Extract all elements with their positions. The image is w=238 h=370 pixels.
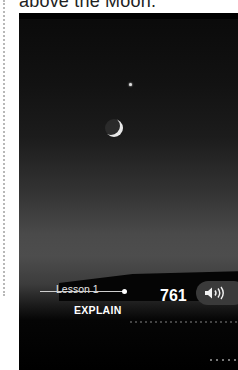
footer-artifact <box>210 359 236 361</box>
page-number: 761 <box>160 287 187 305</box>
star-point <box>129 83 132 86</box>
section-label: EXPLAIN <box>74 304 122 316</box>
audio-button[interactable] <box>196 281 238 305</box>
footer-artifact <box>130 321 238 323</box>
lesson-progress-line <box>40 291 124 292</box>
moon-photo <box>19 13 238 370</box>
caption-text: above the Moon. <box>19 0 156 12</box>
dotted-margin-rule <box>3 0 5 296</box>
speaker-icon <box>204 286 226 300</box>
progress-dot <box>122 289 127 294</box>
lesson-label: Lesson 1 <box>56 283 99 295</box>
crescent-moon <box>105 119 123 137</box>
